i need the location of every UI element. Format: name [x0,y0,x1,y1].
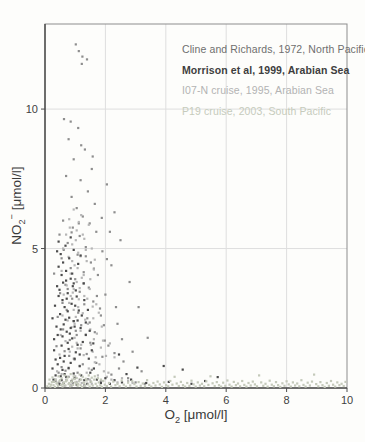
data-point [140,385,142,387]
data-point [51,317,53,319]
data-point [75,239,77,241]
data-point [71,231,73,233]
data-point [216,381,218,383]
data-point [104,377,106,379]
data-point [88,367,90,369]
data-point [182,369,184,371]
data-point [88,374,90,376]
data-point [46,385,48,387]
data-point [64,319,66,321]
data-point [180,381,182,383]
data-point [79,287,81,289]
data-point [55,374,57,376]
data-point [279,386,281,388]
data-point [98,312,100,314]
data-point [101,217,103,219]
data-point [57,385,59,387]
data-point [132,351,134,353]
data-point [118,367,120,369]
data-point [148,384,150,386]
data-point [53,273,55,275]
data-point [147,337,149,339]
data-point [277,384,279,386]
data-point [51,381,53,383]
data-point [97,274,99,276]
data-point [188,385,190,387]
data-point [319,381,321,383]
data-point [51,367,53,369]
data-point [231,386,233,388]
data-point [80,330,82,332]
data-point [110,264,112,266]
data-point [49,386,51,388]
data-point [62,383,64,385]
data-point [62,261,64,263]
data-point [334,386,336,388]
data-point [243,384,245,386]
data-point [311,381,313,383]
data-point [65,175,67,177]
data-point [57,334,59,336]
data-point [78,50,80,52]
x-axis-label: O2 [μmol/l] [96,407,296,425]
data-point [61,274,63,276]
data-point [55,358,57,360]
data-point [70,278,72,280]
data-point [97,374,99,376]
data-point [217,376,219,378]
data-point [66,331,68,333]
data-point [112,381,114,383]
data-point [113,356,115,358]
data-point [64,340,66,342]
data-point [212,382,214,384]
data-point [48,379,50,381]
data-point [73,282,75,284]
data-point [83,299,85,301]
data-point [81,386,83,388]
scatter-figure: 02468100510 Cline and Richards, 1972, No… [0,0,365,442]
data-point [48,383,50,385]
data-point [70,327,72,329]
data-point [294,384,296,386]
data-point [62,328,64,330]
data-point [125,386,127,388]
data-point [184,386,186,388]
data-point [290,386,292,388]
data-point [182,384,184,386]
x-tick-label: 8 [284,394,290,406]
data-point [92,306,94,308]
data-point [53,349,55,351]
data-point [178,385,180,387]
data-point [89,372,91,374]
data-point [72,285,74,287]
data-point [82,234,84,236]
data-point [94,361,96,363]
data-point [96,295,98,297]
data-point [73,309,75,311]
data-point [286,380,288,382]
data-point [86,317,88,319]
data-point [67,342,69,344]
data-point [146,379,148,381]
data-point [75,316,77,318]
data-point [73,288,75,290]
data-point [269,380,271,382]
data-point [80,344,82,346]
data-point [51,376,53,378]
data-point [77,306,79,308]
data-point [138,381,140,383]
data-point [77,385,79,387]
data-point [281,382,283,384]
data-point [67,288,69,290]
data-point [68,348,70,350]
data-point [214,385,216,387]
data-point [125,373,127,375]
data-point [74,326,76,328]
data-point [100,379,102,381]
x-tick-label: 6 [223,394,229,406]
data-point [87,309,89,311]
data-point [163,365,165,367]
data-point [64,374,66,376]
data-point [87,383,89,385]
data-point [92,384,94,386]
